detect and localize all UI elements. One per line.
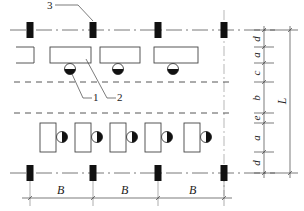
dimension-label-b: B bbox=[121, 183, 129, 197]
segment-label-b: b bbox=[250, 95, 262, 101]
segment-label-a: a bbox=[250, 52, 262, 58]
column-icon bbox=[90, 165, 97, 181]
desk bbox=[184, 123, 200, 152]
column-icon bbox=[155, 22, 162, 38]
column-icon bbox=[221, 22, 228, 38]
seat-icon bbox=[92, 132, 103, 143]
segment-label-d: d bbox=[250, 160, 262, 166]
seat-icon bbox=[65, 64, 76, 75]
dimension-label-b: B bbox=[189, 183, 197, 197]
desk bbox=[154, 47, 198, 63]
seat-icon bbox=[57, 132, 68, 143]
desk bbox=[50, 47, 91, 63]
segment-label-a: a bbox=[250, 135, 262, 141]
desk bbox=[75, 123, 91, 152]
dimension-label-b: B bbox=[57, 183, 65, 197]
seat-icon bbox=[113, 64, 124, 75]
desk bbox=[145, 123, 161, 152]
desk bbox=[110, 123, 126, 152]
segment-label-e: e bbox=[250, 115, 262, 120]
seat-icon bbox=[162, 132, 173, 143]
total-label-l: L bbox=[275, 97, 289, 105]
callout-label-2: 2 bbox=[117, 91, 123, 103]
seat-icon bbox=[127, 132, 138, 143]
column-icon bbox=[27, 165, 34, 181]
seat-icon bbox=[201, 132, 212, 143]
column-icon bbox=[221, 165, 228, 181]
seat-icon bbox=[168, 64, 179, 75]
top-seats bbox=[65, 64, 179, 75]
segment-labels: d a c b e a d L bbox=[250, 36, 289, 166]
desk bbox=[40, 123, 56, 152]
column-icon bbox=[90, 22, 97, 38]
segment-label-d: d bbox=[250, 36, 262, 42]
desk bbox=[100, 47, 140, 63]
desk-partial bbox=[16, 47, 34, 63]
column-icon bbox=[155, 165, 162, 181]
callout-label-3: 3 bbox=[47, 0, 53, 11]
top-desk-row bbox=[16, 47, 198, 63]
callout-label-1: 1 bbox=[93, 91, 99, 103]
classroom-layout-diagram: 3 1 2 B B B d a bbox=[0, 0, 304, 211]
segment-label-c: c bbox=[250, 70, 262, 75]
aisle-lines bbox=[14, 82, 232, 113]
column-icon bbox=[27, 22, 34, 38]
